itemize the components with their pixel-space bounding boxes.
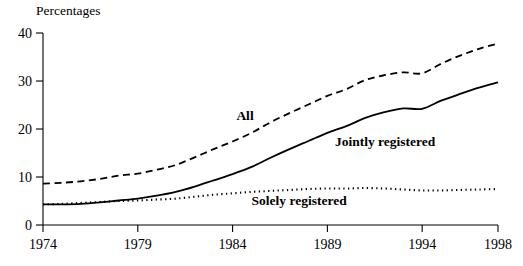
- x-tick-label: 1984: [219, 237, 247, 252]
- series-label-jointly-registered: Jointly registered: [335, 134, 436, 149]
- y-tick-label: 0: [25, 218, 32, 233]
- axis-title-group: Percentages: [36, 3, 100, 18]
- x-tick-label: 1979: [124, 237, 152, 252]
- y-tick-label: 20: [18, 122, 32, 137]
- x-tick-label: 1994: [408, 237, 436, 252]
- y-tick-label: 30: [18, 74, 32, 89]
- x-axis: 197419791984198919941998: [29, 225, 512, 252]
- y-tick-label: 40: [18, 26, 32, 41]
- x-tick-label: 1998: [484, 237, 512, 252]
- x-tick-label: 1974: [29, 237, 57, 252]
- series-labels: AllJointly registeredSolely registered: [236, 108, 435, 207]
- y-axis-title: Percentages: [36, 3, 100, 18]
- series-lines: [43, 44, 498, 205]
- y-tick-label: 10: [18, 170, 32, 185]
- series-label-solely-registered: Solely registered: [252, 193, 348, 208]
- series-label-all: All: [236, 108, 254, 123]
- y-axis: 010203040: [18, 26, 43, 233]
- x-tick-label: 1989: [313, 237, 341, 252]
- line-chart: Percentages 010203040 197419791984198919…: [0, 0, 523, 266]
- chart-container: Percentages 010203040 197419791984198919…: [0, 0, 523, 266]
- series-line-all: [43, 44, 498, 184]
